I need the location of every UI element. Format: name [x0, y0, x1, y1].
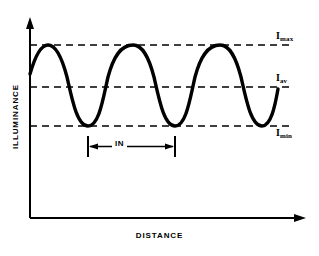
level-label-imin: Imin [276, 128, 292, 138]
x-axis [30, 214, 306, 222]
y-axis-label: ILLUMINANCE [11, 72, 20, 162]
period-span-marker [88, 136, 175, 157]
illuminance-curve [30, 45, 278, 126]
x-axis-label: DISTANCE [0, 231, 319, 240]
level-subscript-imin: min [280, 132, 292, 140]
y-axis [26, 17, 34, 218]
period-label: IN [112, 139, 127, 148]
level-label-iav: Iav [276, 73, 287, 83]
plot-area [0, 0, 319, 256]
level-subscript-iav: av [280, 77, 287, 85]
level-label-imax: Imax [276, 31, 293, 41]
level-subscript-imax: max [280, 35, 293, 43]
illuminance-distance-figure: IN Imax Iav Imin ILLUMINANCE DISTANCE [0, 0, 319, 256]
